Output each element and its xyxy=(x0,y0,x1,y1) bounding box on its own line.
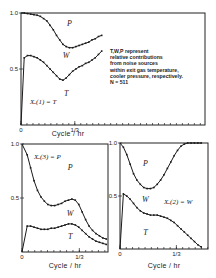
data-point xyxy=(75,224,77,226)
data-point xyxy=(78,66,80,68)
data-point xyxy=(85,233,87,235)
region-label-w: W xyxy=(67,209,75,218)
data-point xyxy=(177,225,179,227)
data-point xyxy=(184,231,186,233)
data-point xyxy=(123,193,125,195)
data-point xyxy=(82,65,84,67)
x-axis-label: Cycle / hr xyxy=(148,262,181,270)
data-point xyxy=(36,14,38,16)
data-point xyxy=(92,230,94,232)
data-point xyxy=(72,47,74,49)
data-point xyxy=(50,205,52,207)
data-point xyxy=(146,213,148,215)
data-point xyxy=(75,199,77,201)
data-point xyxy=(49,68,51,70)
panel-label: Xₑ(1) = T xyxy=(29,98,57,106)
data-point xyxy=(57,226,59,228)
data-point xyxy=(75,68,77,70)
region-label-w: W xyxy=(142,195,150,204)
y-tick-label: 1.0 xyxy=(11,141,20,147)
data-point xyxy=(126,154,128,156)
data-point xyxy=(26,225,28,227)
data-point xyxy=(140,210,142,212)
annotation-line: relative contributions xyxy=(110,54,163,60)
region-label-w: W xyxy=(63,51,71,60)
data-point xyxy=(160,179,162,181)
data-point xyxy=(36,57,38,59)
data-point xyxy=(54,227,56,229)
data-point xyxy=(47,204,49,206)
series-line-t-w-boundary xyxy=(22,224,106,252)
data-point xyxy=(78,226,80,228)
data-point xyxy=(140,184,142,186)
data-point xyxy=(177,150,179,152)
data-point xyxy=(92,238,94,240)
data-point xyxy=(46,65,48,67)
data-point xyxy=(62,79,64,81)
x-axis-label: Cycle / hr xyxy=(52,130,85,138)
data-point xyxy=(82,44,84,46)
data-point xyxy=(156,214,158,216)
data-point xyxy=(33,180,35,182)
data-point xyxy=(190,142,192,144)
data-point xyxy=(33,56,35,58)
data-point xyxy=(43,61,45,63)
y-tick-label: 1.0 xyxy=(109,140,118,146)
data-point xyxy=(64,200,66,202)
data-point xyxy=(30,167,32,169)
data-point xyxy=(143,212,145,214)
data-point xyxy=(101,50,103,52)
data-point xyxy=(72,70,74,72)
data-point xyxy=(68,223,70,225)
panel-bottom-right: 01/30.51.0Cycle / hrPWTXₑ(2) = W xyxy=(109,140,208,270)
data-point xyxy=(150,188,152,190)
region-label-p: P xyxy=(142,159,148,168)
data-point xyxy=(30,225,32,227)
data-point xyxy=(52,72,54,74)
data-point xyxy=(43,18,45,20)
annotation-line: T,W,P represent xyxy=(110,48,149,54)
plot-frame xyxy=(120,143,208,249)
data-point xyxy=(102,237,104,239)
data-point xyxy=(129,198,131,200)
region-label-p: P xyxy=(66,19,72,28)
data-point xyxy=(91,59,93,61)
data-point xyxy=(52,29,54,31)
data-point xyxy=(59,78,61,80)
panel-label: Xₑ(3) = P xyxy=(33,153,61,161)
data-point xyxy=(78,204,80,206)
data-point xyxy=(26,154,28,156)
y-tick-label: 1.0 xyxy=(10,10,19,16)
data-point xyxy=(62,44,64,46)
data-point xyxy=(75,46,77,48)
data-point xyxy=(40,59,42,61)
data-point xyxy=(88,225,90,227)
data-point xyxy=(68,199,70,201)
data-point xyxy=(98,36,100,38)
data-point xyxy=(81,230,83,232)
data-point xyxy=(46,20,48,22)
x-tick-label: 1/3 xyxy=(75,254,84,260)
series-line-w-p-boundary xyxy=(21,13,102,48)
data-point xyxy=(27,55,29,57)
data-point xyxy=(33,226,35,228)
data-point xyxy=(94,57,96,59)
data-point xyxy=(200,246,202,248)
annotation-line: within exit gas temperature, xyxy=(109,67,179,73)
data-point xyxy=(44,229,46,231)
data-point xyxy=(91,39,93,41)
data-point xyxy=(88,236,90,238)
data-point xyxy=(105,244,107,246)
annotation-line: from noise sources xyxy=(110,60,158,66)
data-point xyxy=(88,41,90,43)
data-point xyxy=(64,224,66,226)
data-point xyxy=(59,39,61,41)
y-tick-label: 0.5 xyxy=(10,66,19,72)
data-point xyxy=(88,61,90,63)
data-point xyxy=(146,188,148,190)
data-point xyxy=(27,13,29,15)
chart-figure: 01/30.51.0Cycle / hrPWTXₑ(1) = TT,W,P re… xyxy=(0,0,216,278)
data-point xyxy=(85,63,87,65)
data-point xyxy=(133,173,135,175)
data-point xyxy=(81,211,83,213)
